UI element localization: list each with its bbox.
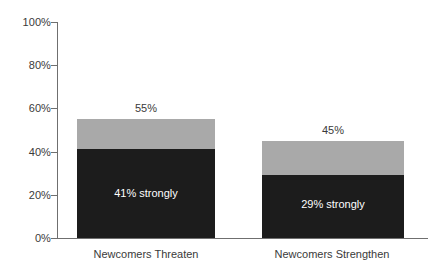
y-axis-label-80: 80% [5, 59, 51, 71]
stacked-bar-chart: 0% 20% 40% 60% 80% 100% 41% strongly 55%… [0, 0, 448, 271]
y-axis-label-100: 100% [5, 16, 51, 28]
y-axis-label-60: 60% [5, 102, 51, 114]
bar-stack-newcomers-strengthen[interactable]: 29% strongly [262, 141, 404, 238]
x-axis-line [57, 238, 428, 239]
bar-group-newcomers-strengthen: 29% strongly 45% [262, 22, 404, 238]
bar-inner-label-1: 41% strongly [77, 187, 215, 199]
bar-total-label-1: 55% [77, 102, 215, 114]
y-tick-mark-0 [51, 238, 57, 239]
bar-group-newcomers-threaten: 41% strongly 55% [77, 22, 215, 238]
y-axis-label-20: 20% [5, 189, 51, 201]
category-label-newcomers-strengthen: Newcomers Strengthen [222, 248, 442, 260]
y-axis-label-40: 40% [5, 146, 51, 158]
bar-segment-dark-1: 41% strongly [77, 149, 215, 238]
plot-area: 41% strongly 55% 29% strongly 45% [57, 22, 428, 238]
bar-stack-newcomers-threaten[interactable]: 41% strongly [77, 119, 215, 238]
bar-total-label-2: 45% [262, 124, 404, 136]
bar-inner-label-2: 29% strongly [262, 198, 404, 210]
y-axis-label-0: 0% [5, 232, 51, 244]
bar-segment-dark-2: 29% strongly [262, 175, 404, 238]
